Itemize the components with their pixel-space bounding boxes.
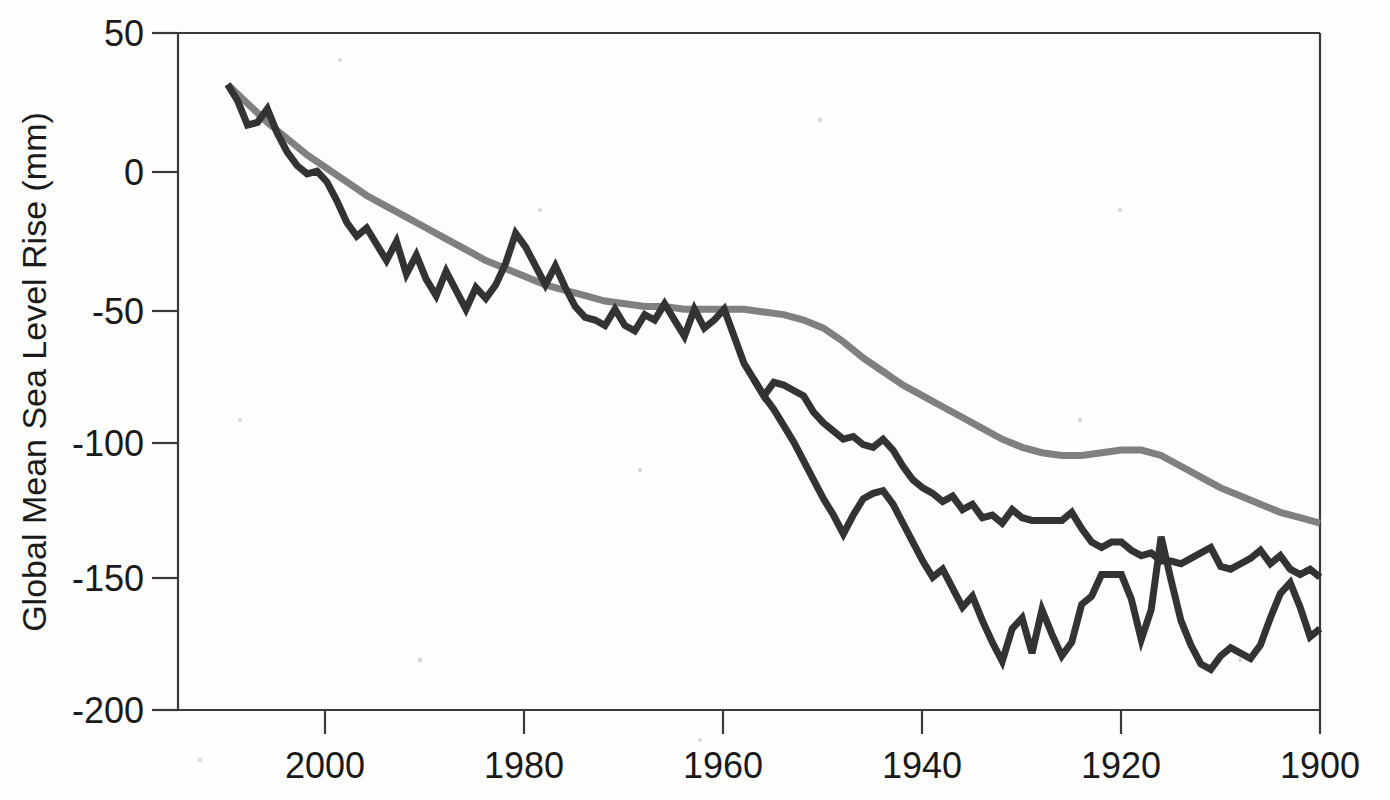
x-tick-label-1900: 1900: [1280, 745, 1360, 786]
y-tick-label-minus150: -150: [72, 558, 144, 599]
y-tick-label-minus100: -100: [72, 423, 144, 464]
x-tick-label-1920: 1920: [1081, 745, 1161, 786]
x-tick-label-1980: 1980: [484, 745, 564, 786]
y-axis-title: Global Mean Sea Level Rise (mm): [15, 112, 53, 632]
y-axis-ticks: 50 0 -50 -100 -150 -200: [72, 13, 178, 731]
paper-texture: [198, 58, 1242, 762]
x-tick-label-2000: 2000: [285, 745, 365, 786]
x-tick-label-1960: 1960: [683, 745, 763, 786]
y-tick-label-50: 50: [104, 13, 144, 54]
sea-level-rise-figure: 50 0 -50 -100 -150 -200 2000 1980 1960 1…: [0, 0, 1390, 800]
x-tick-label-1940: 1940: [882, 745, 962, 786]
series-smoothed-trend: [228, 84, 1320, 523]
data-series-layer: [228, 84, 1320, 669]
chart-canvas: 50 0 -50 -100 -150 -200 2000 1980 1960 1…: [0, 0, 1390, 800]
series-reconstruction-lower: [754, 380, 1320, 670]
y-tick-label-minus50: -50: [92, 291, 144, 332]
x-axis-ticks: 2000 1980 1960 1940 1920 1900: [285, 710, 1360, 786]
y-tick-label-0: 0: [124, 152, 144, 193]
y-tick-label-minus200: -200: [72, 690, 144, 731]
series-reconstruction-upper: [228, 84, 1320, 577]
